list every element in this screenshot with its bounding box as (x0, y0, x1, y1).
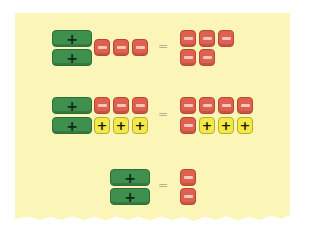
equals-sign: = (158, 178, 168, 192)
positive-x-tile: + (52, 49, 92, 66)
negative-unit-tile (199, 97, 215, 114)
minus-icon (98, 104, 107, 107)
minus-icon (136, 104, 145, 107)
negative-unit-tile (113, 39, 129, 56)
positive-x-tile: + (52, 117, 92, 134)
positive-unit-tile: + (113, 117, 129, 134)
positive-x-tile: + (110, 188, 150, 205)
positive-unit-tile: + (218, 117, 234, 134)
plus-sign: + (240, 118, 251, 133)
plus-sign: + (66, 118, 78, 134)
minus-icon (203, 56, 212, 59)
equals-sign: = (158, 107, 168, 121)
positive-x-tile: + (110, 169, 150, 186)
negative-unit-tile (180, 188, 196, 205)
plus-sign: + (124, 170, 136, 186)
minus-icon (184, 56, 193, 59)
negative-unit-tile (180, 30, 196, 47)
minus-icon (117, 46, 126, 49)
negative-unit-tile (180, 169, 196, 186)
negative-unit-tile (132, 97, 148, 114)
minus-icon (241, 104, 250, 107)
minus-icon (184, 124, 193, 127)
plus-sign: + (124, 189, 136, 205)
plus-sign: + (66, 31, 78, 47)
negative-unit-tile (180, 49, 196, 66)
minus-icon (184, 195, 193, 198)
negative-unit-tile (237, 97, 253, 114)
plus-sign: + (135, 118, 146, 133)
negative-unit-tile (113, 97, 129, 114)
plus-sign: + (116, 118, 127, 133)
minus-icon (184, 37, 193, 40)
minus-icon (222, 37, 231, 40)
plus-sign: + (97, 118, 108, 133)
negative-unit-tile (199, 49, 215, 66)
negative-unit-tile (180, 97, 196, 114)
plus-sign: + (221, 118, 232, 133)
plus-sign: + (66, 98, 78, 114)
plus-sign: + (202, 118, 213, 133)
negative-unit-tile (218, 30, 234, 47)
positive-unit-tile: + (237, 117, 253, 134)
minus-icon (203, 104, 212, 107)
negative-unit-tile (218, 97, 234, 114)
minus-icon (203, 37, 212, 40)
equals-sign: = (158, 39, 168, 53)
minus-icon (222, 104, 231, 107)
minus-icon (98, 46, 107, 49)
positive-x-tile: + (52, 97, 92, 114)
positive-unit-tile: + (132, 117, 148, 134)
negative-unit-tile (180, 117, 196, 134)
plus-sign: + (66, 50, 78, 66)
positive-x-tile: + (52, 30, 92, 47)
minus-icon (184, 176, 193, 179)
minus-icon (136, 46, 145, 49)
negative-unit-tile (94, 97, 110, 114)
positive-unit-tile: + (94, 117, 110, 134)
minus-icon (184, 104, 193, 107)
negative-unit-tile (132, 39, 148, 56)
negative-unit-tile (94, 39, 110, 56)
positive-unit-tile: + (199, 117, 215, 134)
minus-icon (117, 104, 126, 107)
negative-unit-tile (199, 30, 215, 47)
